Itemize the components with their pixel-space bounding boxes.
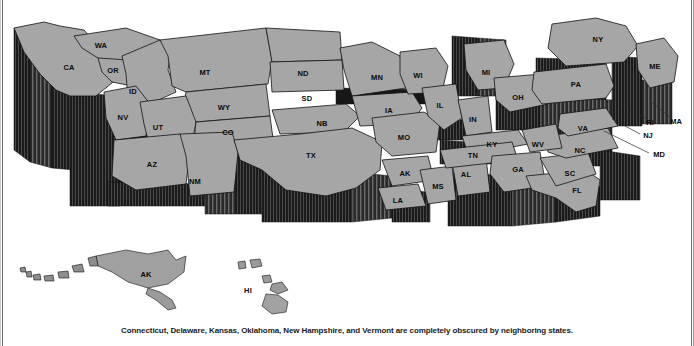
- state-label-NY: NY: [593, 35, 604, 44]
- state-label-CO: CO: [222, 128, 234, 137]
- state-label-SC: SC: [565, 169, 576, 178]
- state-label-GA: GA: [512, 165, 524, 174]
- callout-label-NJ: NJ: [643, 131, 653, 140]
- state-label-OH: OH: [512, 93, 524, 102]
- state-label-OR: OR: [107, 66, 119, 75]
- state-label-MI: MI: [482, 68, 491, 77]
- state-label-NV: NV: [118, 113, 129, 122]
- state-NM: [180, 132, 238, 196]
- state-label-AL: AL: [461, 170, 472, 179]
- state-label-IL: IL: [436, 101, 443, 110]
- state-label-IN: IN: [469, 115, 477, 124]
- callout-label-MA: MA: [670, 117, 682, 126]
- state-label-LA: LA: [393, 196, 404, 205]
- state-label-MT: MT: [199, 68, 210, 77]
- inset-label-HI: HI: [244, 286, 252, 295]
- state-label-MS: MS: [432, 182, 444, 191]
- state-ND: [266, 28, 342, 62]
- state-label-TN: TN: [468, 151, 478, 160]
- state-label-IA: IA: [385, 106, 393, 115]
- state-label-NC: NC: [574, 146, 586, 155]
- state-label-WV: WV: [532, 140, 544, 149]
- map-canvas: WAORCAIDNVMTWYUTAZNMCONDSDNBTXMNIAMOAKLA…: [0, 0, 694, 320]
- state-label-WA: WA: [95, 41, 108, 50]
- state-label-FL: FL: [572, 186, 582, 195]
- state-label-MN: MN: [371, 73, 383, 82]
- prism-map-figure: WAORCAIDNVMTWYUTAZNMCONDSDNBTXMNIAMOAKLA…: [0, 0, 694, 346]
- state-label-ME: ME: [649, 62, 661, 71]
- state-label-PA: PA: [571, 80, 582, 89]
- state-MN: [340, 42, 406, 96]
- state-label-CA: CA: [63, 63, 75, 72]
- state-MT: [160, 28, 272, 92]
- state-label-AK: AK: [399, 169, 411, 178]
- state-label-TX: TX: [306, 151, 316, 160]
- state-label-SD: SD: [302, 94, 313, 103]
- state-label-ID: ID: [129, 87, 137, 96]
- state-label-AZ: AZ: [147, 160, 158, 169]
- state-label-KY: KY: [487, 140, 498, 149]
- state-label-VA: VA: [578, 124, 589, 133]
- state-label-WI: WI: [413, 71, 423, 80]
- inset-alaska: [20, 250, 186, 310]
- inset-label-AK: AK: [140, 270, 152, 279]
- state-label-MO: MO: [398, 133, 410, 142]
- state-label-ND: ND: [297, 69, 309, 78]
- callout-label-MD: MD: [653, 150, 665, 159]
- state-label-WY: WY: [218, 103, 230, 112]
- figure-caption: Connecticut, Delaware, Kansas, Oklahoma,…: [0, 326, 694, 335]
- callout-label-RI: RI: [646, 118, 654, 127]
- state-label-NB: NB: [316, 119, 328, 128]
- us-prism-map-svg: WAORCAIDNVMTWYUTAZNMCONDSDNBTXMNIAMOAKLA…: [0, 0, 694, 320]
- state-label-NM: NM: [189, 177, 201, 186]
- state-label-UT: UT: [153, 123, 164, 132]
